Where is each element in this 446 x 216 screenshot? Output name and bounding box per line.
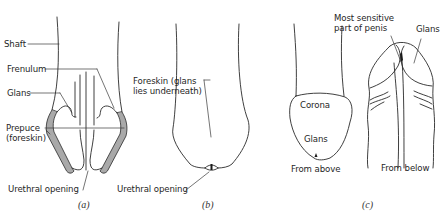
label-from-above: From above bbox=[291, 164, 340, 174]
below-center-right bbox=[402, 60, 404, 168]
glans-right-lobe bbox=[90, 130, 102, 170]
above-urethral-dot bbox=[315, 153, 318, 157]
sensitive-leader bbox=[391, 36, 401, 62]
label-most-sensitive-2: part of penis bbox=[334, 23, 387, 33]
below-right-lobe bbox=[401, 46, 432, 86]
urethral-slit bbox=[211, 164, 213, 170]
label-prepuce: Prepuce bbox=[6, 123, 40, 133]
below-right-outline bbox=[390, 42, 435, 168]
urethral-a-leader bbox=[83, 171, 88, 190]
glans-c-leader bbox=[414, 39, 421, 63]
label-urethral-opening-b: Urethral opening bbox=[117, 184, 188, 194]
anatomy-figure: Shaft Frenulum Glans Prepuce (foreskin) … bbox=[0, 0, 446, 216]
panel-b-drawing bbox=[173, 24, 249, 190]
above-shaft-right bbox=[341, 26, 344, 96]
below-fold-l3 bbox=[371, 102, 384, 110]
glans-leader-diag bbox=[60, 93, 72, 113]
below-center-left bbox=[394, 63, 399, 168]
label-glans-c-above: Glans bbox=[304, 134, 328, 144]
label-foreskin-b-2: lies underneath) bbox=[133, 86, 202, 96]
label-glans-c-below: Glans bbox=[416, 24, 440, 34]
label-corona: Corona bbox=[300, 100, 330, 110]
glans-left-lobe bbox=[72, 130, 84, 170]
label-from-below: From below bbox=[381, 163, 429, 173]
shaft-left-outline bbox=[52, 17, 58, 110]
panel-a-drawing bbox=[28, 17, 127, 190]
label-shaft: Shaft bbox=[4, 39, 26, 49]
label-foreskin-paren: (foreskin) bbox=[6, 133, 46, 143]
shaft-right-outline bbox=[118, 22, 122, 112]
label-most-sensitive-1: Most sensitive bbox=[334, 13, 394, 23]
below-fold-l2 bbox=[370, 96, 390, 104]
caption-b: (b) bbox=[202, 199, 214, 210]
foreskin-left-outline bbox=[173, 24, 205, 168]
panel-c-below-drawing bbox=[367, 36, 434, 168]
frenulum-leader-diag bbox=[97, 69, 114, 108]
above-shaft-left bbox=[294, 24, 296, 96]
below-left-outline bbox=[367, 46, 390, 168]
foreskin-leader bbox=[204, 80, 211, 137]
glans-left-top bbox=[57, 106, 76, 117]
label-urethral-opening-a: Urethral opening bbox=[8, 184, 79, 194]
caption-c: (c) bbox=[362, 199, 373, 210]
below-fold-r3 bbox=[420, 104, 432, 109]
foreskin-right-outline bbox=[218, 24, 249, 168]
prepuce-left-band bbox=[46, 110, 74, 173]
label-frenulum: Frenulum bbox=[7, 64, 46, 74]
caption-a: (a) bbox=[78, 199, 90, 210]
label-glans-a: Glans bbox=[7, 88, 31, 98]
urethral-b-leader bbox=[186, 172, 209, 190]
label-foreskin-b-1: Foreskin (glans bbox=[133, 76, 196, 86]
prepuce-right-band bbox=[100, 112, 127, 173]
below-fold-l1 bbox=[370, 92, 388, 100]
